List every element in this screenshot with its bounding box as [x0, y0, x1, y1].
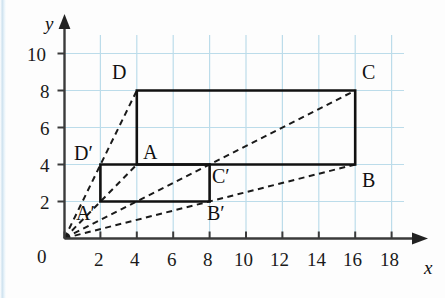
- plot-canvas: [0, 0, 445, 298]
- vertex-label-D-prime: D′: [74, 143, 93, 163]
- x-axis-name: x: [424, 258, 432, 277]
- x-tick-label-16: 16: [343, 250, 362, 269]
- x-tick-label-6: 6: [167, 250, 177, 269]
- x-tick-label-4: 4: [130, 250, 140, 269]
- vertex-label-A-prime: A′: [76, 203, 95, 223]
- x-axis-arrowhead: [412, 232, 428, 244]
- y-tick-label-4: 4: [40, 156, 50, 175]
- y-tick-label-2: 2: [40, 193, 50, 212]
- rectangle-A-prime-B-prime-C-prime-D-prime: [100, 165, 209, 202]
- y-tick-label-6: 6: [40, 119, 50, 138]
- y-axis-arrowhead: [59, 14, 71, 29]
- x-tick-label-0: 0: [37, 247, 47, 266]
- vertex-label-C: C: [362, 62, 375, 82]
- y-tick-label-8: 8: [40, 82, 50, 101]
- x-tick-label-14: 14: [307, 250, 326, 269]
- vertex-label-B: B: [362, 170, 375, 190]
- y-axis-name: y: [45, 14, 53, 33]
- vertex-label-D: D: [112, 62, 126, 82]
- x-tick-label-18: 18: [380, 250, 399, 269]
- coordinate-graph-figure: y x 0 2 4 6 8 10 12 14 16 18 2 4 6 8 10 …: [0, 0, 445, 298]
- x-tick-label-2: 2: [94, 250, 104, 269]
- x-tick-label-12: 12: [270, 250, 289, 269]
- vertex-label-A: A: [143, 142, 157, 162]
- vertex-label-B-prime: B′: [207, 203, 225, 223]
- x-tick-label-10: 10: [234, 250, 253, 269]
- x-tick-label-8: 8: [203, 250, 213, 269]
- y-tick-label-10: 10: [27, 45, 46, 64]
- vertex-label-C-prime: C′: [212, 166, 230, 186]
